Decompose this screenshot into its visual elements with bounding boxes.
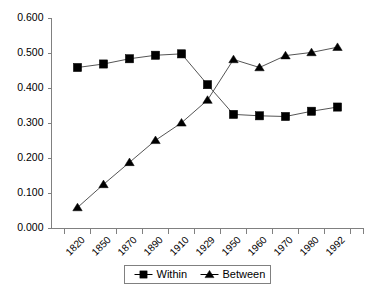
data-point-within — [151, 51, 159, 59]
y-axis-tick-label: 0.600 — [17, 11, 43, 23]
y-axis-tick-label: 0.200 — [17, 151, 43, 163]
data-point-within — [73, 63, 81, 71]
y-axis-tick-label: 0.500 — [17, 46, 43, 58]
x-axis-tick-label: 1950 — [219, 234, 243, 258]
data-point-within — [307, 107, 315, 115]
line-chart: 0.0000.1000.2000.3000.4000.5000.600 1820… — [0, 0, 378, 293]
data-point-within — [255, 112, 263, 120]
y-axis-tick-label: 0.000 — [17, 221, 43, 233]
data-point-within — [281, 112, 289, 120]
series-line-between — [78, 47, 338, 207]
legend-label: Between — [223, 268, 266, 280]
data-point-within — [229, 110, 237, 118]
x-axis-tick-label: 1980 — [297, 234, 321, 258]
data-point-within — [203, 81, 211, 89]
data-series-group — [73, 43, 342, 211]
x-axis-tick-label: 1960 — [245, 234, 269, 258]
y-axis-tick-label: 0.100 — [17, 186, 43, 198]
y-axis: 0.0000.1000.2000.3000.4000.5000.600 — [17, 11, 51, 233]
x-axis-tick-label: 1870 — [115, 234, 139, 258]
data-point-within — [125, 55, 133, 63]
data-point-within — [99, 60, 107, 68]
x-axis-tick-label: 1890 — [141, 234, 165, 258]
chart-container: 0.0000.1000.2000.3000.4000.5000.600 1820… — [0, 0, 378, 293]
x-axis-tick-label: 1820 — [63, 234, 87, 258]
y-axis-tick-label: 0.400 — [17, 81, 43, 93]
data-point-between — [333, 43, 342, 51]
legend-label: Within — [157, 268, 188, 280]
y-axis-tick-label: 0.300 — [17, 116, 43, 128]
series-within — [73, 50, 341, 121]
x-axis-tick-label: 1910 — [167, 234, 191, 258]
x-axis-tick-label: 1992 — [323, 234, 347, 258]
x-axis-tick-label: 1970 — [271, 234, 295, 258]
data-point-within — [177, 50, 185, 58]
series-between — [73, 43, 342, 211]
square-marker-icon — [140, 271, 147, 278]
data-point-between — [203, 96, 212, 104]
data-point-within — [333, 103, 341, 111]
x-axis: 1820185018701890191019291950196019701980… — [52, 229, 364, 258]
data-point-between — [151, 136, 160, 144]
data-point-between — [229, 55, 238, 63]
x-axis-tick-label: 1850 — [89, 234, 113, 258]
x-axis-tick-label: 1929 — [193, 234, 217, 258]
chart-legend: WithinBetween — [125, 266, 271, 284]
